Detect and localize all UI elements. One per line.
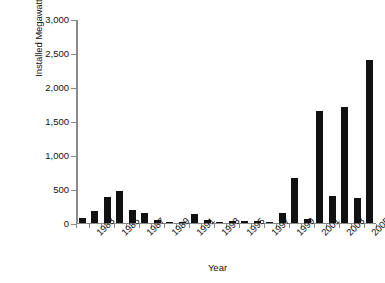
y-tick-mark <box>71 88 76 89</box>
bar <box>79 218 86 223</box>
bar <box>191 214 198 223</box>
y-tick-mark <box>71 156 76 157</box>
y-axis-line <box>76 20 78 224</box>
bar <box>216 222 223 223</box>
x-tick-mark <box>76 224 77 228</box>
bar <box>291 178 298 223</box>
x-tick-label: 1993 <box>219 230 227 238</box>
x-tick-label: 2001 <box>319 230 327 238</box>
x-tick-label: 1999 <box>294 230 302 238</box>
x-tick-mark <box>89 224 90 228</box>
x-axis-title-text: Year <box>208 262 227 273</box>
x-tick-label: 1987 <box>144 230 152 238</box>
y-tick-label: 3,000 <box>45 14 69 25</box>
plot-area: 05001,0001,5002,0002,5003,000 <box>76 20 376 224</box>
bar <box>266 222 273 223</box>
x-tick-label: 1989 <box>169 230 177 238</box>
bar <box>341 107 348 223</box>
y-tick-label: 2,500 <box>45 48 69 59</box>
bar <box>366 60 373 223</box>
y-tick-label: 2,000 <box>45 82 69 93</box>
x-tick-label: 2003 <box>344 230 352 238</box>
bar <box>241 221 248 223</box>
x-tick-label: 1991 <box>194 230 202 238</box>
x-axis-title: Year <box>0 262 385 273</box>
x-tick-label: 1997 <box>269 230 277 238</box>
x-tick-label: 1983 <box>94 230 102 238</box>
bar <box>316 111 323 223</box>
y-tick-mark <box>71 190 76 191</box>
x-tick-label: 1985 <box>119 230 127 238</box>
y-tick-mark <box>71 122 76 123</box>
y-tick-mark <box>71 20 76 21</box>
y-tick-label: 1,500 <box>45 116 69 127</box>
y-tick-label: 1,000 <box>45 150 69 161</box>
y-tick-mark <box>71 54 76 55</box>
bar <box>91 211 98 223</box>
bar <box>166 222 173 223</box>
y-tick-label: 500 <box>53 184 69 195</box>
x-tick-label: 2005 <box>369 230 377 238</box>
x-tick-label: 1995 <box>244 230 252 238</box>
wind-capacity-bar-chart: Installed Megawatts (net) 05001,0001,500… <box>0 0 385 283</box>
bar <box>116 191 123 223</box>
bar <box>141 213 148 223</box>
y-tick-label: 0 <box>64 218 69 229</box>
